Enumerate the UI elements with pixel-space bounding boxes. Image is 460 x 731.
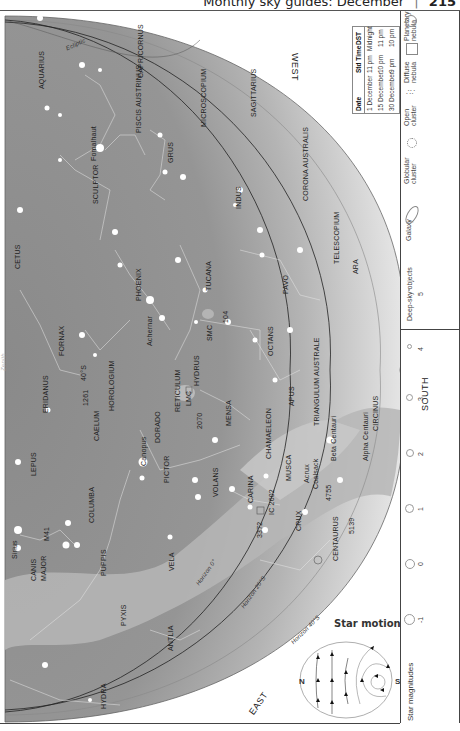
- constellation-telescopium: TELESCOPIUM: [333, 212, 340, 264]
- table-row-2-dst: 11 pm: [377, 29, 384, 47]
- object-ngc5139: 5139: [348, 518, 355, 534]
- constellation-tucana: TUCANA: [205, 261, 212, 291]
- constellation-triangulum-australe: TRIANGULUM AUSTRALE: [313, 337, 320, 426]
- table-row-2-date: 15 December: [377, 72, 384, 111]
- object-smc: SMC: [206, 325, 213, 341]
- legend-panel: Star magnitudes -1 0 1 2 3 4 5 Deep-sky …: [400, 11, 460, 723]
- running-header: Monthly sky guides: December | 215: [203, 0, 456, 9]
- galaxy-icon: [403, 204, 422, 226]
- constellation-canis-major-1: CANIS: [30, 559, 37, 581]
- constellation-fornax: FORNAX: [58, 326, 65, 356]
- table-row-3-dst: 10 pm: [388, 29, 395, 47]
- constellation-centaurus: CENTAURUS: [332, 516, 339, 561]
- table-header-dst: DST: [355, 32, 362, 45]
- table-divider: [364, 27, 365, 113]
- constellation-mensa: MENSA: [225, 400, 232, 426]
- constellation-antlia: ANTLIA: [167, 625, 174, 651]
- constellation-apus: APUS: [288, 386, 295, 406]
- object-ngc3372: 3372: [256, 522, 263, 538]
- page-header: Monthly sky guides: December | 215: [0, 0, 460, 10]
- table-row-1-date: 1 December: [366, 76, 373, 111]
- constellation-reticulum: RETICULUM: [174, 369, 181, 412]
- table-row-1-dst: Midnight: [366, 26, 373, 51]
- object-ic2602: IC 2602: [268, 489, 275, 515]
- constellation-ara: ARA: [352, 259, 359, 274]
- constellation-indus: INDUS: [235, 186, 242, 209]
- constellation-vela: VELA: [168, 552, 175, 571]
- deep-sky-objects-label: Deep-sky objects: [406, 267, 413, 321]
- constellation-hydra: HYDRA: [100, 683, 107, 709]
- object-m41: M41: [43, 527, 50, 541]
- object-40s-label: 40°S: [80, 365, 87, 381]
- constellation-sculptor: SCULPTOR: [92, 164, 99, 204]
- star-motion-north: N: [299, 677, 305, 686]
- constellation-carina: CARINA: [247, 475, 254, 503]
- constellation-caelum: CAELUM: [93, 411, 100, 441]
- constellation-corona-australis: CORONA AUSTRALIS: [302, 127, 309, 201]
- object-ngc104: 104: [222, 311, 229, 323]
- star-sirius: Sirius: [11, 540, 18, 559]
- magnitude-circle-icon: [407, 344, 412, 349]
- table-row-3-date: 30 December: [388, 72, 395, 111]
- magnitude-circle-icon: [405, 559, 415, 569]
- constellation-musca: MUSCA: [285, 455, 292, 481]
- table-row-1-std: 11 pm: [366, 55, 373, 73]
- star-motion-diagram: N S: [290, 608, 402, 720]
- star-canopus: Canopus: [140, 437, 147, 466]
- constellation-lepus: LEPUS: [30, 452, 37, 476]
- magnitude-circle-icon: [406, 449, 414, 457]
- constellation-circinus: CIRCINUS: [372, 396, 379, 431]
- footer-rule: [0, 723, 400, 724]
- constellation-sagittarius: SAGITTARIUS: [250, 69, 257, 117]
- table-row-2-std: 10 pm: [377, 55, 384, 73]
- table-header-date: Date: [355, 97, 362, 111]
- constellation-cetus: CETUS: [14, 244, 21, 269]
- constellation-volans: VOLANS: [212, 467, 219, 497]
- constellation-horologium: HOROLOGIUM: [108, 360, 115, 411]
- constellation-grus: GRUS: [167, 142, 174, 163]
- open-cluster-icon: ∴∵: [406, 88, 414, 97]
- constellation-phoenix: PHOENIX: [135, 268, 142, 301]
- running-title: Monthly sky guides: December: [203, 0, 404, 9]
- magnitude-circle-icon: [405, 504, 414, 513]
- object-ngc4755: 4755: [325, 485, 332, 501]
- star-magnitudes-label: Star magnitudes: [406, 663, 415, 721]
- constellation-pictor: PICTOR: [163, 455, 170, 483]
- object-1261: 1261: [82, 390, 89, 406]
- legend-divider: [401, 329, 459, 330]
- star-achernar: Achernar: [146, 316, 153, 346]
- observing-times-table: Date Std Time DST 1 December 11 pm Midni…: [352, 26, 400, 114]
- constellation-piscis-austrinus: PISCIS AUSTRINUS: [135, 65, 142, 133]
- star-acrux: Acrux: [303, 464, 310, 483]
- planetary-nebula-icon: [405, 15, 417, 27]
- table-row-3-std: 9 pm: [388, 59, 395, 73]
- constellation-pavo: PAVO: [282, 275, 289, 294]
- zenith-label: Zenith: [0, 353, 6, 371]
- constellation-pyxis: PYXIS: [120, 604, 127, 626]
- object-coalsack: Coalsack: [312, 459, 319, 489]
- constellation-aquarius: AQUARIUS: [38, 51, 45, 89]
- constellation-puppis: PUPPIS: [100, 549, 107, 576]
- constellation-microscopium: MICROSCOPIUM: [200, 69, 207, 127]
- table-header-std-time: Std Time: [355, 46, 362, 73]
- object-lmc: LMC: [185, 391, 192, 406]
- constellation-hydrus: HYDRUS: [193, 355, 200, 386]
- constellation-canis-major-2: MAJOR: [40, 556, 47, 582]
- diffuse-nebula-icon: [406, 43, 418, 55]
- constellation-chamaeleon: CHAMAELEON: [265, 408, 272, 459]
- page-number: 215: [429, 0, 456, 9]
- object-ngc2070: 2070: [196, 413, 203, 429]
- constellation-eridanus: ERIDANUS: [42, 375, 49, 413]
- constellation-crux: CRUX: [295, 510, 302, 531]
- star-fomalhaut: Fomalhaut: [90, 126, 97, 161]
- constellation-columba: COLUMBA: [88, 487, 95, 523]
- constellation-dorado: DORADO: [154, 411, 161, 443]
- star-beta-centauri: Beta Centauri: [330, 416, 337, 461]
- magnitude-circle-icon: [404, 614, 415, 625]
- globular-cluster-icon: [407, 138, 417, 148]
- star-alpha-centauri: Alpha Centauri: [362, 412, 369, 461]
- constellation-octans: OCTANS: [267, 326, 274, 356]
- direction-west: WEST: [290, 53, 300, 81]
- magnitude-circle-icon: [406, 394, 413, 401]
